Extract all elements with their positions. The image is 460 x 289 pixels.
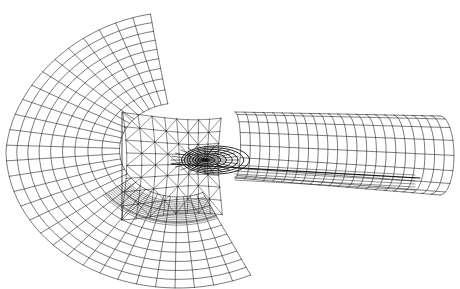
- cylindrical-tail-grid: [235, 112, 454, 195]
- mesh-figure: [0, 0, 460, 289]
- wireframe-mesh: [0, 0, 460, 289]
